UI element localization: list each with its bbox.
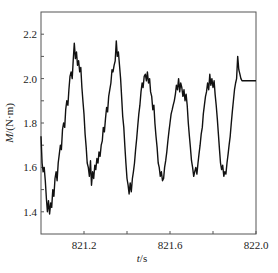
y-tick-label: 1.6 [23, 161, 37, 173]
chart: 1.41.61.82.02.2 821.2821.6822.0 M/(N·m) … [0, 0, 278, 273]
y-tick-label: 2.0 [23, 73, 37, 85]
y-tick-label: 1.4 [23, 206, 37, 218]
moment-line [41, 41, 256, 214]
x-tick-label: 821.2 [72, 239, 97, 251]
x-axis-label: t/s [137, 252, 147, 264]
plot-frame [41, 12, 256, 234]
y-tick-label: 1.8 [23, 117, 37, 129]
y-axis-label: M/(N·m) [3, 103, 16, 144]
x-tick-label: 821.6 [158, 239, 183, 251]
x-tick-label: 822.0 [244, 239, 269, 251]
y-tick-label: 2.2 [23, 28, 37, 40]
